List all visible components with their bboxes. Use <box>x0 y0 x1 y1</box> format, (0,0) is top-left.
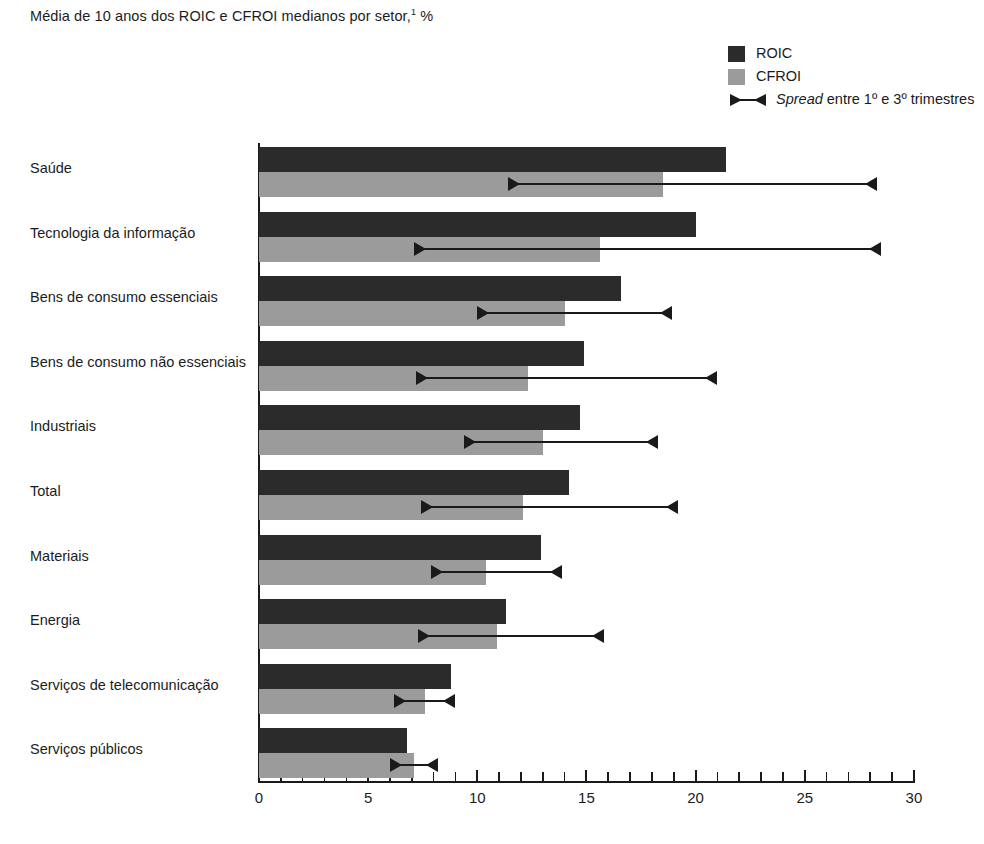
category-label: Materiais <box>30 548 89 564</box>
x-axis-tick-minor <box>651 772 653 781</box>
spread-cap-left-icon <box>431 565 443 579</box>
x-axis-tick-label: 0 <box>255 789 263 806</box>
spread-cap-left-icon <box>394 694 406 708</box>
spread-line <box>464 441 658 443</box>
spread-line <box>421 506 679 508</box>
bar-roic <box>259 470 569 495</box>
category-label: Saúde <box>30 160 72 176</box>
bar-roic <box>259 535 541 560</box>
spread-cap-right-icon <box>592 629 604 643</box>
x-axis-tick-major <box>585 770 587 781</box>
category-label: Serviços de telecomunicação <box>30 677 219 693</box>
category-label: Tecnologia da informação <box>30 225 195 241</box>
spread-line <box>418 635 604 637</box>
bar-roic <box>259 212 696 237</box>
spread-line <box>431 571 562 573</box>
x-axis-tick-label: 5 <box>364 789 372 806</box>
x-axis-tick-label: 10 <box>469 789 486 806</box>
bar-roic <box>259 728 407 753</box>
x-axis-tick-minor <box>629 772 631 781</box>
x-axis-tick-minor <box>848 772 850 781</box>
spread-whisker <box>416 370 717 386</box>
x-axis-tick-major <box>804 770 806 781</box>
bar-roic <box>259 599 506 624</box>
spread-cap-left-icon <box>390 758 402 772</box>
x-axis-tick-minor <box>826 772 828 781</box>
spread-cap-left-icon <box>477 306 489 320</box>
spread-cap-left-icon <box>418 629 430 643</box>
spread-cap-right-icon <box>705 371 717 385</box>
x-axis-tick-minor <box>738 772 740 781</box>
spread-whisker <box>508 176 877 192</box>
category-label: Serviços públicos <box>30 741 143 757</box>
spread-whisker <box>394 693 455 709</box>
x-axis-tick-major <box>913 770 915 781</box>
bar-roic <box>259 147 726 172</box>
spread-whisker <box>477 305 671 321</box>
spread-cap-left-icon <box>508 177 520 191</box>
spread-cap-left-icon <box>421 500 433 514</box>
spread-whisker <box>390 757 438 773</box>
spread-line <box>414 248 881 250</box>
spread-cap-right-icon <box>869 242 881 256</box>
x-axis-tick-minor <box>869 772 871 781</box>
spread-cap-right-icon <box>443 694 455 708</box>
x-axis-tick-minor <box>673 772 675 781</box>
x-axis-tick-minor <box>717 772 719 781</box>
spread-cap-right-icon <box>426 758 438 772</box>
x-axis-tick-minor <box>607 772 609 781</box>
bar-roic <box>259 405 580 430</box>
spread-whisker <box>414 241 881 257</box>
category-label: Bens de consumo não essenciais <box>30 354 246 370</box>
spread-whisker <box>431 564 562 580</box>
category-label: Total <box>30 483 61 499</box>
x-axis-tick-minor <box>564 772 566 781</box>
spread-whisker <box>421 499 679 515</box>
x-axis-tick-minor <box>520 772 522 781</box>
x-axis-tick-minor <box>891 772 893 781</box>
x-axis-tick-major <box>695 770 697 781</box>
chart-container: Média de 10 anos dos ROIC e CFROI median… <box>0 0 984 844</box>
x-axis-tick-major <box>476 770 478 781</box>
spread-whisker <box>418 628 604 644</box>
category-label: Industriais <box>30 418 96 434</box>
x-axis-tick-label: 15 <box>578 789 595 806</box>
x-axis-tick-minor <box>760 772 762 781</box>
bar-roic <box>259 276 621 301</box>
spread-whisker <box>464 434 658 450</box>
x-axis-line <box>258 781 915 783</box>
spread-line <box>508 183 877 185</box>
spread-cap-right-icon <box>550 565 562 579</box>
spread-cap-left-icon <box>416 371 428 385</box>
spread-cap-right-icon <box>865 177 877 191</box>
plot-area: 051015202530SaúdeTecnologia da informaçã… <box>0 0 984 844</box>
spread-cap-right-icon <box>646 435 658 449</box>
x-axis-tick-minor <box>498 772 500 781</box>
x-axis-tick-minor <box>455 772 457 781</box>
spread-cap-right-icon <box>666 500 678 514</box>
spread-cap-left-icon <box>414 242 426 256</box>
spread-cap-right-icon <box>660 306 672 320</box>
category-label: Energia <box>30 612 80 628</box>
spread-line <box>477 312 671 314</box>
category-label: Bens de consumo essenciais <box>30 289 218 305</box>
spread-line <box>416 377 717 379</box>
bar-roic <box>259 664 451 689</box>
bar-roic <box>259 341 584 366</box>
x-axis-tick-label: 20 <box>687 789 704 806</box>
x-axis-tick-minor <box>782 772 784 781</box>
x-axis-tick-label: 30 <box>906 789 923 806</box>
x-axis-tick-label: 25 <box>796 789 813 806</box>
spread-cap-left-icon <box>464 435 476 449</box>
x-axis-tick-minor <box>542 772 544 781</box>
